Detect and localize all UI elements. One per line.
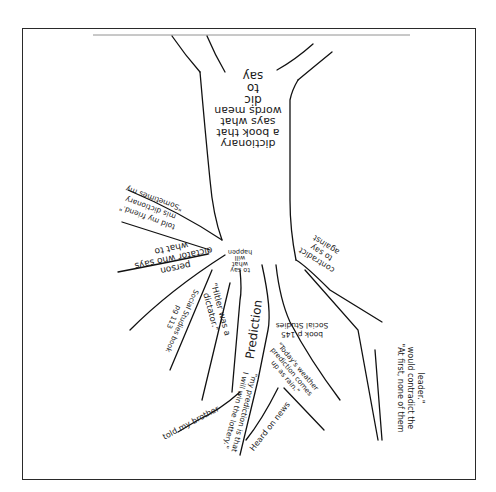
svg-text:words mean: words mean	[214, 104, 281, 117]
trunk-definition: dictionary a book that says what words m…	[214, 104, 281, 150]
svg-text:"At first, none of them: "At first, none of them	[396, 343, 405, 432]
social-studies-145-label: book p 145 Social Studies	[276, 321, 329, 339]
dictator-label: person dictator who says what to	[131, 235, 215, 281]
misdictionary-label: told my friend." mis dictionary "Sometim…	[117, 184, 184, 232]
svg-text:to: to	[247, 81, 259, 95]
root-line	[305, 270, 378, 440]
svg-text:told my brother: told my brother	[161, 404, 221, 442]
tree-drawing: say to dic dictionary a book that says w…	[0, 0, 496, 492]
root-line	[284, 388, 324, 430]
branch-left-2	[207, 36, 225, 72]
svg-text:leader.": leader."	[416, 373, 425, 404]
todays-weather-label: "Today's weather prediction comes up as …	[263, 341, 320, 403]
root-line	[232, 270, 241, 392]
told-brother-label: told my brother	[161, 404, 221, 442]
svg-text:say: say	[243, 69, 264, 83]
at-first-label: "At first, none of them would contradict…	[396, 343, 425, 432]
contradict-label: contradict to say against	[297, 230, 346, 274]
prediction-label: Prediction	[243, 299, 265, 360]
svg-text:Prediction: Prediction	[243, 299, 265, 360]
heard-on-news-label: Heard on news	[248, 400, 292, 453]
branch-right-1	[277, 44, 313, 70]
trunk-top-label: say to dic	[243, 69, 264, 107]
branch-left-1	[172, 36, 200, 72]
root-line	[296, 260, 382, 322]
trunk-right	[290, 80, 298, 260]
trunk-left	[200, 72, 222, 240]
svg-text:would contradict the: would contradict the	[406, 347, 415, 430]
svg-text:happen: happen	[228, 248, 252, 256]
svg-text:book p 145: book p 145	[281, 330, 323, 339]
social-studies-113-label: Social Studies book pg 113	[155, 284, 200, 354]
branch-right-2	[298, 52, 332, 80]
svg-text:Social Studies: Social Studies	[276, 321, 329, 330]
root-meaning-label: to say what will happen	[228, 248, 252, 274]
svg-text:Heard on news: Heard on news	[248, 400, 292, 453]
